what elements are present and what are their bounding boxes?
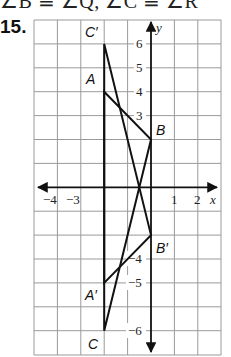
vertex-label-b-prime: B′	[156, 240, 169, 256]
y-tick-label: 4	[136, 84, 143, 99]
coordinate-graph: y x −4 −3 1 2 6 5 4 3 −4 −5 −6 C′ A B B′…	[0, 0, 231, 357]
vertex-label-b: B	[156, 122, 165, 138]
y-tick-label: 6	[136, 36, 143, 51]
y-tick-label: 5	[136, 60, 143, 75]
x-tick-label: 1	[171, 192, 178, 207]
y-tick-label: 3	[136, 108, 143, 123]
y-axis-label: y	[154, 20, 162, 35]
vertex-label-c: C	[88, 336, 99, 352]
vertex-label-a: A	[85, 71, 95, 87]
y-tick-label: −5	[128, 275, 142, 290]
x-tick-label: −4	[43, 192, 57, 207]
vertex-label-c-prime: C′	[85, 24, 99, 40]
y-tick-label: −4	[128, 251, 142, 266]
y-tick-label: −6	[128, 323, 142, 338]
x-tick-label: 2	[194, 192, 201, 207]
vertex-label-a-prime: A′	[84, 287, 98, 303]
x-tick-label: −3	[66, 192, 80, 207]
x-axis-label: x	[209, 192, 216, 207]
